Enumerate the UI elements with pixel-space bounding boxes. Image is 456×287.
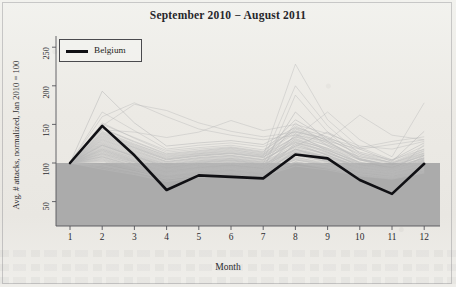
x-tick-label: 7	[261, 232, 266, 242]
y-tick-label: 200	[42, 86, 51, 99]
x-tick-label: 11	[387, 232, 396, 242]
x-tick-label: 8	[293, 232, 298, 242]
y-tick-label: 150	[42, 124, 51, 137]
y-tick-label: 100	[42, 163, 51, 176]
x-tick-label: 5	[196, 232, 201, 242]
x-tick-label: 2	[100, 232, 105, 242]
x-tick-label: 12	[420, 232, 429, 242]
x-tick-label: 10	[355, 232, 364, 242]
x-tick-label: 4	[164, 232, 169, 242]
x-tick-label: 6	[229, 232, 234, 242]
x-tick-label: 3	[132, 232, 137, 242]
x-tick-label: 9	[325, 232, 330, 242]
legend-label-belgium: Belgium	[94, 45, 126, 55]
x-tick-label: 1	[68, 232, 73, 242]
legend-box: Belgium	[59, 39, 142, 62]
y-tick-label: 50	[42, 202, 51, 210]
y-tick-label: 250	[42, 47, 51, 60]
legend-line-swatch	[66, 50, 88, 53]
